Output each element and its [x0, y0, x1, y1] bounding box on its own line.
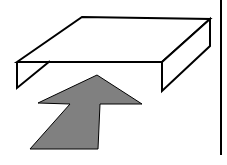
tray-left-edge	[17, 61, 50, 88]
gray-arrow	[30, 75, 142, 149]
tray-box	[17, 17, 210, 91]
diagram-canvas	[0, 0, 227, 165]
